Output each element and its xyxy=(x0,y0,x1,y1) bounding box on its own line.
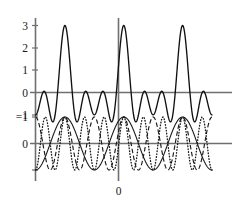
components-panel: −1 0 0 xyxy=(16,111,232,197)
ytick-label-2: 2 xyxy=(22,42,28,54)
ytick-label-minus1-lower: −1 xyxy=(16,111,28,123)
ytick-label-3: 3 xyxy=(22,20,28,32)
xtick-label-0: 0 xyxy=(116,185,122,197)
sum-panel: 3 2 1 0 −1 xyxy=(16,18,232,181)
plot-figure: 3 2 1 0 −1 −1 0 0 xyxy=(0,0,242,203)
ytick-label-1: 1 xyxy=(22,64,28,76)
sum-curve xyxy=(36,26,213,122)
ytick-label-0-upper: 0 xyxy=(22,87,28,99)
ytick-label-0-lower: 0 xyxy=(22,138,28,150)
plot-canvas: 3 2 1 0 −1 −1 0 0 xyxy=(0,0,242,203)
